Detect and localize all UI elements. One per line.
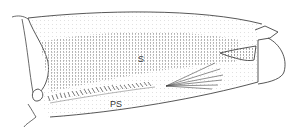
- segment-illustration: S PS: [0, 0, 302, 133]
- left-joint: [12, 16, 36, 127]
- condyle: [32, 89, 42, 101]
- label-s: S: [138, 54, 144, 64]
- label-ps: PS: [110, 99, 122, 109]
